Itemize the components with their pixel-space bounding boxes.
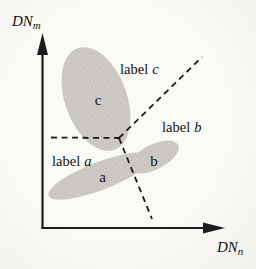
- x-axis-label-base: DN: [216, 239, 239, 255]
- y-axis-label: DNm: [11, 13, 41, 31]
- region-label-c-letter: c: [152, 61, 159, 77]
- region-label-c-word: label: [120, 61, 148, 77]
- y-axis-label-subscript: m: [33, 19, 41, 31]
- cluster-diagram: DNm DNn c a b labelc labelb labela: [0, 0, 256, 269]
- cluster-letter-b: b: [150, 153, 158, 169]
- feature-space-figure: DNm DNn c a b labelc labelb labela: [0, 0, 256, 269]
- cluster-letter-a: a: [99, 169, 106, 185]
- region-label-b: labelb: [162, 119, 201, 135]
- decision-boundary-west: [51, 138, 119, 139]
- y-axis-label-base: DN: [11, 13, 34, 29]
- x-axis-arrowhead: [203, 223, 225, 234]
- region-label-a: labela: [52, 153, 91, 169]
- cluster-letter-c: c: [95, 92, 102, 108]
- region-label-a-word: label: [52, 153, 80, 169]
- x-axis-label-subscript: n: [238, 245, 244, 257]
- region-label-b-word: label: [162, 119, 190, 135]
- region-label-b-letter: b: [194, 119, 201, 135]
- region-label-c: labelc: [120, 61, 159, 77]
- y-axis-arrowhead: [37, 33, 48, 55]
- x-axis-label: DNn: [216, 239, 244, 257]
- region-label-a-letter: a: [84, 153, 91, 169]
